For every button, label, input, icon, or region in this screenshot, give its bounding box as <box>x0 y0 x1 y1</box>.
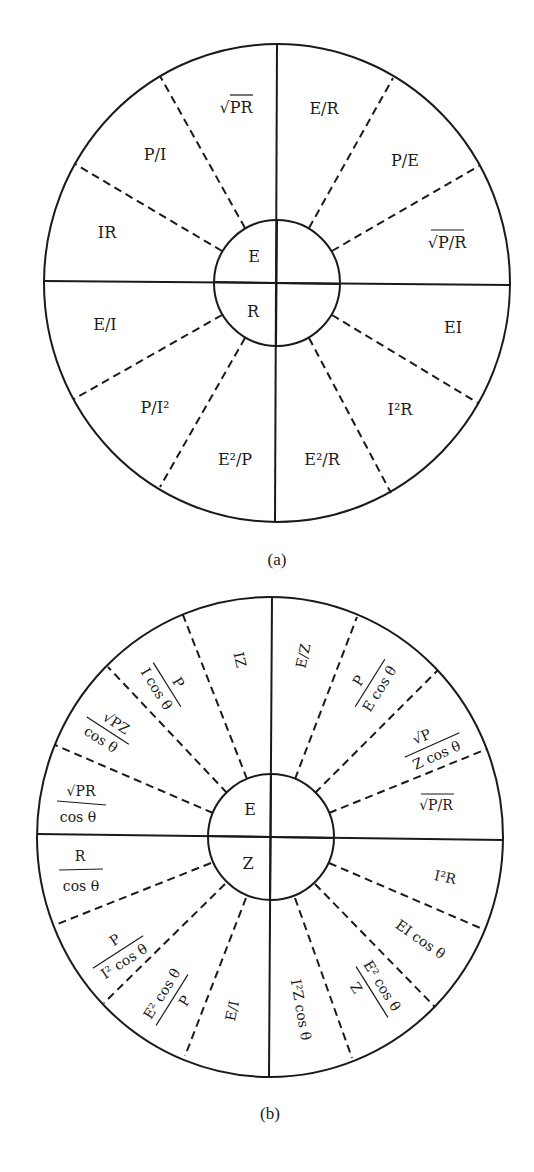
wheel-a-center-bottom: R <box>247 302 260 321</box>
wheel-a-label: E/R <box>309 99 339 118</box>
wheel-b-sector-ll-2: P I² cos θ <box>82 919 154 984</box>
svg-text:R: R <box>75 848 86 864</box>
wheel-b-sector-lr-0: I²R <box>433 867 458 887</box>
wheel-b-center-top: E <box>244 800 256 819</box>
svg-text:E² cos θ: E² cos θ <box>360 957 404 1013</box>
wheel-b-sector-lr-1: EI cos θ <box>393 916 448 962</box>
ohms-law-wheels: E R IR P/I √PR E/R P/E √P/R EI I²R E²/R … <box>0 0 534 1172</box>
svg-text:√PR: √PR <box>67 783 96 799</box>
wheel-a-center-top: E <box>248 247 260 266</box>
wheel-b-sector-ul-0: √PR cos θ <box>57 783 106 825</box>
wheel-b-sector-ur-3: √P/R <box>419 797 453 813</box>
wheel-b-caption: (b) <box>260 1104 280 1123</box>
wheel-b: E Z √PR cos θ √PZ cos θ P I cos θ IZ E/Z… <box>37 597 503 1123</box>
wheel-b-sector-ll-0: E/I <box>222 999 242 1022</box>
wheel-a-label: P/E <box>391 151 419 170</box>
wheel-a-label: P/I <box>144 145 166 164</box>
svg-text:cos θ: cos θ <box>60 809 96 825</box>
wheel-a: E R IR P/I √PR E/R P/E √P/R EI I²R E²/R … <box>44 44 510 569</box>
wheel-b-sector-lr-3: I²Z cos θ <box>288 978 314 1041</box>
svg-text:√P: √P <box>410 725 433 747</box>
wheel-a-label: IR <box>98 223 117 242</box>
svg-text:cos θ: cos θ <box>63 878 99 894</box>
wheel-a-label: E²/R <box>304 450 340 469</box>
wheel-b-sector-ul-3: IZ <box>231 651 250 670</box>
wheel-b-sector-lr-2: E² cos θ Z <box>340 956 405 1028</box>
svg-text:P: P <box>107 930 124 949</box>
svg-text:P: P <box>349 672 368 688</box>
wheel-b-sector-ll-1: E² cos θ P <box>139 964 204 1036</box>
wheel-b-sector-ur-0: E/Z <box>293 642 314 670</box>
wheel-a-label: I²R <box>388 400 414 419</box>
wheel-b-center-bottom: Z <box>242 854 253 873</box>
svg-text:Z: Z <box>347 979 366 996</box>
wheel-a-caption: (a) <box>268 550 287 569</box>
wheel-a-label: EI <box>444 318 462 337</box>
wheel-b-sector-ur-2: √P Z cos θ <box>396 715 467 775</box>
svg-text:P: P <box>175 993 194 1009</box>
svg-text:E cos θ: E cos θ <box>359 663 400 715</box>
svg-text:P: P <box>169 674 188 690</box>
wheel-b-sector-ul-1: √PZ cos θ <box>77 701 140 760</box>
wheel-a-label: E²/P <box>218 450 252 469</box>
wheel-a-label: √PR <box>219 98 253 117</box>
wheel-a-label: √P/R <box>428 233 467 252</box>
wheel-b-sector-ll-3: R cos θ <box>59 848 103 894</box>
wheel-a-label: P/I² <box>141 398 170 417</box>
wheel-a-label: E/I <box>93 315 116 334</box>
svg-text:I² cos θ: I² cos θ <box>98 940 150 982</box>
svg-text:E² cos θ: E² cos θ <box>140 965 184 1021</box>
wheel-b-sector-ur-1: P E cos θ <box>339 649 401 717</box>
